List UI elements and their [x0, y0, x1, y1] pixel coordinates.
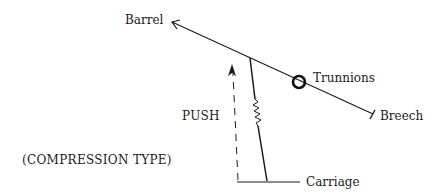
recoil-diagram: Barrel Trunnions Breech PUSH (COMPRESSIO… — [0, 0, 442, 196]
barrel-axis — [172, 20, 373, 114]
push-label: PUSH — [182, 109, 220, 123]
push-arrow — [228, 64, 238, 180]
compression-type-label: (COMPRESSION TYPE) — [22, 153, 172, 167]
carriage-label: Carriage — [306, 175, 360, 189]
breech-label: Breech — [380, 109, 423, 123]
spring-zigzag-icon — [253, 99, 261, 126]
barrel-label: Barrel — [125, 13, 164, 27]
barrel-arrowhead-icon — [172, 20, 180, 29]
trunnions-label: Trunnions — [313, 71, 375, 85]
push-arrowhead-icon — [228, 64, 236, 76]
recoil-spring-leg — [250, 58, 267, 181]
breech-tick — [370, 110, 375, 119]
